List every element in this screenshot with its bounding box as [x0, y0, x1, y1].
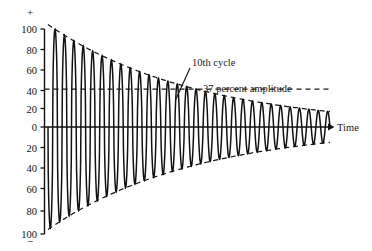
- y-tick-label-0: 0: [32, 122, 37, 133]
- annotation-time-axis-label: Time: [337, 122, 359, 133]
- y-tick-label-60p: 60: [27, 65, 38, 76]
- y-tick-label-20n: 20: [27, 143, 38, 154]
- y-tick-label-20p: 20: [27, 104, 38, 115]
- y-tick-label-80p: 80: [27, 45, 38, 56]
- y-tick-label-60n: 60: [27, 184, 38, 195]
- y-tick-label-100n: 100: [21, 229, 37, 240]
- positive-sign-label: +: [27, 6, 33, 18]
- damped-oscillation-chart: + − 100 80 60 40 20 0 20 40 60 80 100 10…: [0, 0, 372, 251]
- y-tick-label-40n: 40: [27, 163, 38, 174]
- y-tick-label-80n: 80: [27, 206, 38, 217]
- chart-canvas: + − 100 80 60 40 20 0 20 40 60 80 100 10…: [0, 0, 372, 251]
- annotation-37-percent-amplitude: 37 percent amplitude: [203, 83, 292, 94]
- y-tick-label-100p: 100: [21, 24, 37, 35]
- annotation-tenth-cycle: 10th cycle: [192, 57, 236, 68]
- y-tick-label-40p: 40: [27, 86, 38, 97]
